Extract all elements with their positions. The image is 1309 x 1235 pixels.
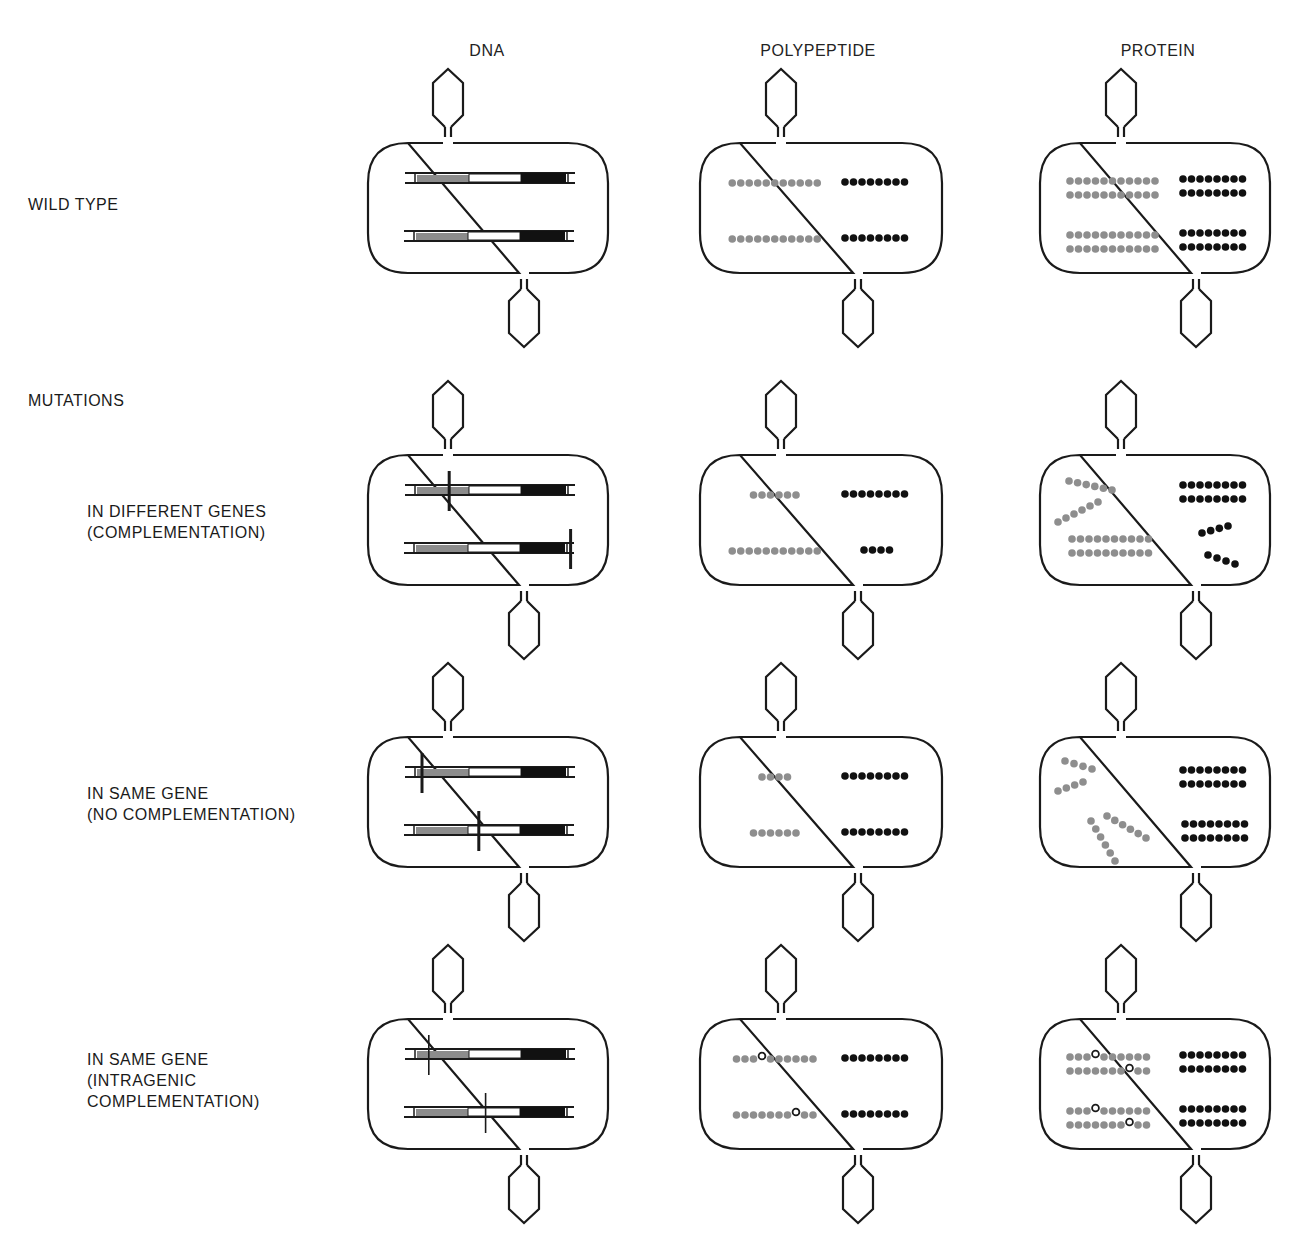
gray-residue (1100, 1067, 1108, 1075)
black-residue (1239, 481, 1247, 489)
gray-residue (779, 547, 787, 555)
black-residue (1222, 780, 1230, 788)
black-residue (1241, 834, 1249, 842)
gray-residue (1143, 231, 1151, 239)
black-residue (1230, 175, 1238, 183)
intergenic-region (468, 232, 520, 240)
black-residue (1179, 495, 1187, 503)
phage-head-icon (433, 381, 463, 439)
black-residue (1213, 1051, 1221, 1059)
black-residue (858, 234, 866, 242)
black-residue (901, 490, 909, 498)
black-residue (1205, 1119, 1213, 1127)
gray-residue (1085, 535, 1093, 543)
residue (1216, 525, 1224, 533)
black-residue (1222, 175, 1230, 183)
black-residue (1222, 495, 1230, 503)
gray-residue (767, 829, 775, 837)
residue (1111, 857, 1119, 865)
residue (1231, 560, 1239, 568)
black-residue (1222, 243, 1230, 251)
black-residue (1179, 766, 1187, 774)
gray-residue (1066, 1107, 1074, 1115)
gray-residue (762, 235, 770, 243)
residue (1078, 506, 1086, 514)
phage-head-icon (1106, 381, 1136, 439)
phage-head-icon (766, 69, 796, 127)
black-residue (901, 178, 909, 186)
black-residue (1222, 766, 1230, 774)
gray-residue (1075, 177, 1083, 185)
dna-cell-same-gene (368, 663, 608, 941)
gray-residue (1126, 1107, 1134, 1115)
gray-residue (796, 235, 804, 243)
black-residue (1205, 175, 1213, 183)
gray-residue (1066, 191, 1074, 199)
black-residue (1230, 495, 1238, 503)
phage-head-icon (509, 601, 539, 659)
gray-residue (758, 491, 766, 499)
gray-residue (1134, 1107, 1142, 1115)
black-residue (892, 772, 900, 780)
gray-residue (737, 235, 745, 243)
gray-residue (741, 1055, 749, 1063)
gray-residue (809, 1111, 817, 1119)
altered-residue-icon (1092, 1105, 1099, 1112)
black-residue (867, 234, 875, 242)
polypeptide-cell-same-gene (700, 663, 942, 941)
black-residue (1205, 481, 1213, 489)
gray-residue (1117, 177, 1125, 185)
gray-residue (1134, 245, 1142, 253)
black-residue (884, 490, 892, 498)
gray-residue (1075, 231, 1083, 239)
gray-residue (1066, 1053, 1074, 1061)
gray-residue (745, 547, 753, 555)
altered-residue-icon (793, 1109, 800, 1116)
gray-residue (1117, 1121, 1125, 1129)
complementation-diagram (0, 0, 1309, 1235)
phage-head-icon (766, 663, 796, 721)
black-residue (1188, 481, 1196, 489)
gray-residue (1083, 1053, 1091, 1061)
gene-a-region (416, 545, 468, 552)
gray-residue (1109, 231, 1117, 239)
black-residue (1230, 481, 1238, 489)
black-residue (1213, 1105, 1221, 1113)
gray-residue (1075, 245, 1083, 253)
black-residue (1205, 189, 1213, 197)
black-residue (892, 1054, 900, 1062)
black-residue (1179, 1105, 1187, 1113)
black-residue (1213, 780, 1221, 788)
intergenic-region (469, 486, 521, 494)
black-residue (1213, 189, 1221, 197)
black-residue (858, 1054, 866, 1062)
intergenic-region (469, 174, 521, 182)
gray-residue (1126, 1053, 1134, 1061)
gray-residue (1117, 1053, 1125, 1061)
residue (1088, 765, 1096, 773)
residue (1224, 522, 1232, 530)
polypeptide-cell-wild-type (700, 69, 942, 347)
black-residue (858, 1110, 866, 1118)
black-residue (1188, 1065, 1196, 1073)
black-residue (1213, 481, 1221, 489)
black-residue (1239, 780, 1247, 788)
residue (1091, 483, 1099, 491)
gray-residue (771, 547, 779, 555)
gray-residue (1111, 535, 1119, 543)
gray-residue (754, 179, 762, 187)
altered-residue-icon (1126, 1065, 1133, 1072)
gray-residue (775, 829, 783, 837)
black-residue (867, 490, 875, 498)
bacterial-cell-outline (700, 1019, 942, 1149)
phage-head-icon (1106, 69, 1136, 127)
gray-residue (1092, 1067, 1100, 1075)
black-residue (1179, 243, 1187, 251)
gray-residue (1075, 1107, 1083, 1115)
black-residue (884, 178, 892, 186)
gray-residue (1143, 1107, 1151, 1115)
black-residue (1230, 1065, 1238, 1073)
gray-residue (1143, 1067, 1151, 1075)
gray-residue (1151, 231, 1159, 239)
gray-residue (1109, 1067, 1117, 1075)
